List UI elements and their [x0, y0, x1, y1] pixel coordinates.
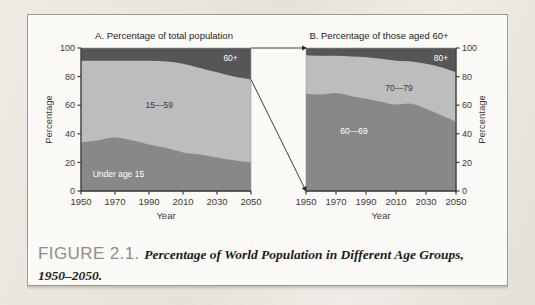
- figure-label: FIGURE 2.1.: [38, 244, 140, 263]
- panel-a-x-tick-label-1: 1970: [104, 196, 125, 207]
- panel-b-x-tick-label-3: 2010: [385, 196, 406, 207]
- panel-b-y-tick-label-0: 0: [462, 186, 467, 196]
- connector-bottom: [251, 79, 306, 191]
- page-shadow: [27, 286, 508, 290]
- panel-b-x-tick-label-2: 1990: [355, 196, 376, 207]
- panel-b-series-label-1: 70—79: [385, 83, 413, 93]
- panel-a-x-tick-label-3: 2010: [172, 196, 193, 207]
- panel-a-y-tick-label-1: 20: [65, 158, 75, 168]
- panel-a: A. Percentage of total populationUnder a…: [43, 30, 262, 221]
- panel-b-y-tick-label-3: 60: [462, 100, 472, 110]
- panel-a-y-tick-label-4: 80: [65, 72, 75, 82]
- panel-a-x-tick-label-0: 1950: [70, 196, 91, 207]
- panel-b-y-tick-label-5: 100: [462, 43, 477, 53]
- panel-a-title: A. Percentage of total population: [95, 30, 233, 41]
- panel-a-bands: Under age 1515—5960+: [81, 48, 251, 191]
- panel-b-series-label-0: 60—69: [340, 126, 368, 136]
- panel-b-y-tick-label-2: 40: [462, 129, 472, 139]
- panel-b-bands: 60—6970—7980+: [306, 48, 456, 191]
- figure-caption: FIGURE 2.1. Percentage of World Populati…: [38, 243, 493, 285]
- panel-a-xlabel: Year: [156, 210, 175, 221]
- connector-arrows: [251, 48, 306, 191]
- panel-a-x-tick-label-5: 2050: [240, 196, 261, 207]
- panel-a-y-tick-label-0: 0: [70, 186, 75, 196]
- panel-b-x-tick-label-4: 2030: [415, 196, 436, 207]
- panel-b: B. Percentage of those aged 60+60—6970—7…: [295, 30, 487, 221]
- panel-b-series-label-2: 80+: [434, 53, 448, 63]
- panel-b-x-tick-label-1: 1970: [325, 196, 346, 207]
- panel-a-y-tick-label-3: 60: [65, 100, 75, 110]
- panel-a-y-tick-label-5: 100: [60, 43, 75, 53]
- panel-a-ylabel: Percentage: [43, 95, 54, 144]
- panel-b-y-tick-label-1: 20: [462, 158, 472, 168]
- panel-b-x-tick-label-0: 1950: [295, 196, 316, 207]
- panel-a-series-label-1: 15—59: [145, 100, 173, 110]
- panel-a-x-tick-label-4: 2030: [206, 196, 227, 207]
- panel-a-x-tick-label-2: 1990: [138, 196, 159, 207]
- panel-a-series-label-0: Under age 15: [93, 169, 145, 179]
- panel-b-x-tick-label-5: 2050: [445, 196, 466, 207]
- stacked-area-charts: A. Percentage of total populationUnder a…: [28, 15, 509, 245]
- panel-b-ylabel: Percentage: [476, 95, 487, 144]
- panel-a-series-label-2: 60+: [223, 53, 237, 63]
- panel-a-y-tick-label-2: 40: [65, 129, 75, 139]
- panel-b-xlabel: Year: [371, 210, 390, 221]
- panel-b-y-tick-label-4: 80: [462, 72, 472, 82]
- panel-b-title: B. Percentage of those aged 60+: [309, 30, 449, 41]
- figure-card: A. Percentage of total populationUnder a…: [27, 14, 508, 286]
